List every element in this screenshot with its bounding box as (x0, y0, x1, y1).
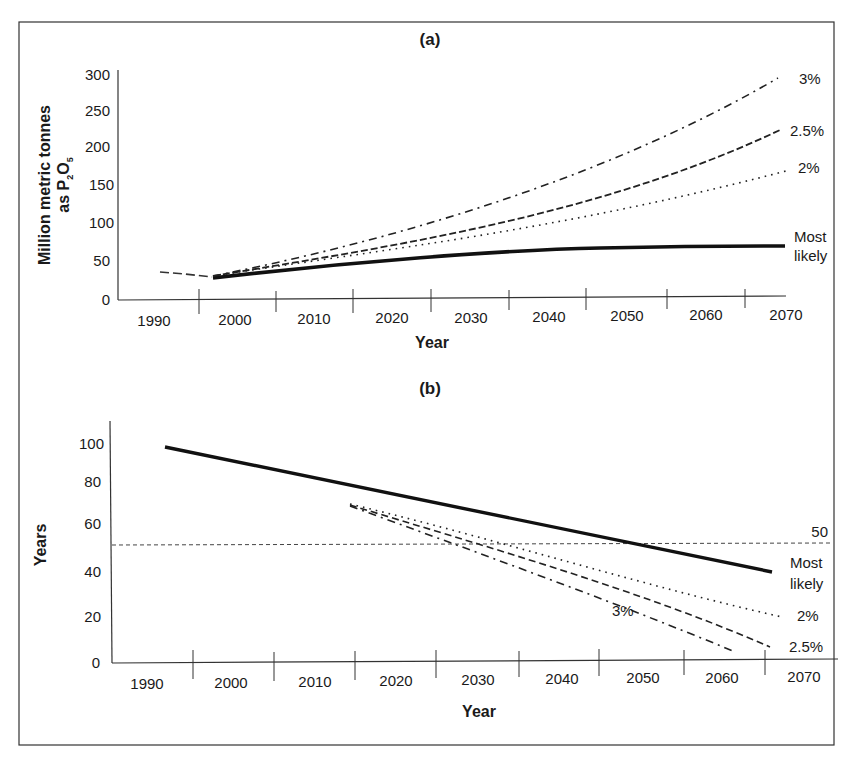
svg-text:2070: 2070 (787, 668, 820, 685)
svg-text:300: 300 (85, 66, 110, 83)
svg-text:1990: 1990 (137, 312, 170, 329)
panel-b-2-5pct-line (350, 505, 770, 647)
svg-text:0: 0 (102, 291, 110, 308)
svg-text:2030: 2030 (454, 309, 487, 326)
panel-a-y-ticks: 0 50 100 150 200 250 300 (85, 66, 114, 308)
svg-text:as P2O5: as P2O5 (55, 157, 75, 212)
panel-b-label: (b) (419, 379, 441, 398)
svg-text:2.5%: 2.5% (789, 638, 823, 655)
panel-b-series-labels: Most likely 2% 2.5% 3% (612, 554, 824, 655)
svg-text:2050: 2050 (626, 669, 659, 686)
svg-text:2%: 2% (797, 607, 819, 624)
panel-b: (b) Years 0 20 40 60 80 100 50 (32, 379, 838, 720)
svg-text:60: 60 (84, 515, 101, 532)
panel-a-label: (a) (420, 30, 441, 49)
svg-text:2050: 2050 (610, 307, 643, 324)
svg-text:20: 20 (84, 608, 101, 625)
figure: (a) Million metric tonnes as P2O5 0 50 1… (0, 0, 860, 759)
panel-a-series-labels: 3% 2.5% 2% Most likely (790, 70, 828, 264)
svg-text:2020: 2020 (379, 672, 412, 689)
svg-text:Years: Years (32, 524, 49, 567)
panel-b-y-axis-label: Years (32, 524, 49, 567)
svg-text:100: 100 (79, 435, 104, 452)
panel-b-3pct-line (350, 506, 733, 651)
svg-text:250: 250 (85, 102, 110, 119)
svg-text:2000: 2000 (218, 311, 251, 328)
svg-text:2%: 2% (798, 159, 820, 176)
panel-a-x-ticks: 1990 2000 2010 2020 2030 2040 2050 2060 … (137, 306, 802, 329)
svg-text:0: 0 (92, 654, 100, 671)
svg-text:150: 150 (89, 176, 114, 193)
svg-text:80: 80 (84, 473, 101, 490)
svg-text:2030: 2030 (461, 671, 494, 688)
svg-text:100: 100 (89, 214, 114, 231)
svg-text:2010: 2010 (297, 310, 330, 327)
svg-text:40: 40 (84, 563, 101, 580)
panel-a-most-likely-line (213, 246, 785, 278)
svg-text:2060: 2060 (705, 669, 738, 686)
panel-b-most-likely-line (165, 447, 772, 572)
svg-text:2010: 2010 (298, 673, 331, 690)
svg-text:2060: 2060 (689, 306, 722, 323)
svg-text:2020: 2020 (375, 309, 408, 326)
svg-text:2.5%: 2.5% (790, 122, 824, 139)
panel-a-x-axis (118, 296, 786, 300)
panel-b-reference-label: 50 (811, 523, 828, 540)
svg-text:Most: Most (794, 228, 827, 245)
svg-text:Million metric tonnes: Million metric tonnes (36, 105, 53, 265)
svg-text:1990: 1990 (130, 675, 163, 692)
svg-text:likely: likely (790, 575, 824, 592)
svg-text:2040: 2040 (545, 670, 578, 687)
svg-text:likely: likely (794, 247, 828, 264)
svg-text:Most: Most (790, 554, 823, 571)
panel-a-x-axis-label: Year (415, 334, 449, 351)
svg-text:3%: 3% (799, 70, 821, 87)
panel-a: (a) Million metric tonnes as P2O5 0 50 1… (36, 30, 828, 351)
panel-b-x-ticks: 1990 2000 2010 2020 2030 2040 2050 2060 … (130, 668, 820, 692)
svg-text:3%: 3% (612, 602, 634, 619)
svg-text:2070: 2070 (769, 306, 802, 323)
panel-b-y-ticks: 0 20 40 60 80 100 (79, 435, 104, 671)
panel-b-x-axis-label: Year (462, 703, 496, 720)
svg-text:50: 50 (93, 252, 110, 269)
panel-b-y-axis (110, 421, 112, 663)
panel-a-y-axis-label: Million metric tonnes as P2O5 (36, 105, 75, 265)
panel-b-reference-line-50 (112, 543, 830, 545)
panel-b-x-axis (112, 659, 838, 663)
svg-text:2000: 2000 (214, 674, 247, 691)
svg-text:200: 200 (85, 138, 110, 155)
svg-text:2040: 2040 (532, 308, 565, 325)
panel-a-historical-line (160, 272, 212, 277)
